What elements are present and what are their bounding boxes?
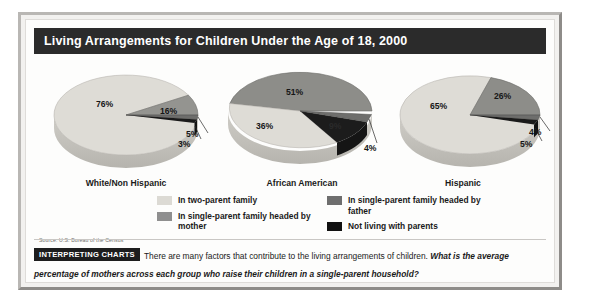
- pie-chart-white-non-hispanic: 76% 16% 5% 3% White/Non Hispanic: [38, 59, 214, 189]
- legend-label: In single-parent family headed by father: [348, 195, 487, 216]
- pie-category-label: African American: [214, 178, 390, 188]
- pie-chart-african-american: 51% 36% 9% 4% African American: [214, 59, 390, 189]
- pie-slice-label-mother: 51%: [286, 87, 303, 97]
- pie-slice-label-mother: 16%: [160, 106, 177, 116]
- pie-slice-label-no-parents: 3%: [178, 139, 190, 149]
- pie-category-label: White/Non Hispanic: [38, 178, 214, 188]
- pie-slice-label-two-parent: 65%: [430, 101, 447, 111]
- legend-swatch-icon: [157, 212, 172, 221]
- legend-item-mother: In single-parent family headed by mother: [157, 211, 317, 232]
- legend-item-no-parents: Not living with parents: [327, 221, 487, 232]
- pie-charts-row: 76% 16% 5% 3% White/Non Hispanic: [34, 59, 546, 189]
- pie-slice-label-father: 5%: [186, 129, 198, 139]
- legend-label: In single-parent family headed by mother: [178, 211, 317, 232]
- pie-graphic: [390, 59, 566, 189]
- pie-slice-label-no-parents: 9%: [329, 121, 341, 131]
- legend-item-two-parent: In two-parent family: [157, 195, 317, 206]
- legend-column-right: In single-parent family headed by father…: [327, 195, 487, 237]
- interpreting-charts-section: INTERPRETING CHARTSThere are many factor…: [34, 239, 546, 275]
- chart-inner-panel: Living Arrangements for Children Under t…: [25, 19, 555, 283]
- pie-slice-label-father: 4%: [364, 143, 376, 153]
- pie-slice-label-father: 4%: [529, 127, 541, 137]
- legend-column-left: In two-parent family In single-parent fa…: [157, 195, 317, 237]
- pie-chart-hispanic: 65% 26% 4% 5% Hispanic: [390, 59, 566, 189]
- chart-legend: In two-parent family In single-parent fa…: [157, 195, 487, 241]
- chart-figure: Living Arrangements for Children Under t…: [18, 12, 562, 290]
- chart-title-bar: Living Arrangements for Children Under t…: [34, 28, 546, 54]
- legend-item-father: In single-parent family headed by father: [327, 195, 487, 216]
- legend-label: In two-parent family: [178, 195, 257, 206]
- interpreting-charts-tag: INTERPRETING CHARTS: [34, 248, 140, 261]
- legend-swatch-icon: [157, 196, 172, 205]
- pie-slice-label-two-parent: 36%: [256, 121, 273, 131]
- legend-swatch-icon: [327, 222, 342, 231]
- legend-swatch-icon: [327, 196, 342, 205]
- interpreting-text: There are many factors that contribute t…: [144, 251, 430, 261]
- page-title: Living Arrangements for Children Under t…: [34, 34, 407, 48]
- pie-slice-label-two-parent: 76%: [96, 99, 113, 109]
- pie-category-label: Hispanic: [390, 178, 536, 188]
- pie-slice-label-no-parents: 5%: [520, 139, 532, 149]
- pie-slice-label-mother: 26%: [494, 91, 511, 101]
- legend-label: Not living with parents: [348, 221, 438, 232]
- pie-graphic: [214, 59, 390, 189]
- pie-graphic: [38, 59, 214, 189]
